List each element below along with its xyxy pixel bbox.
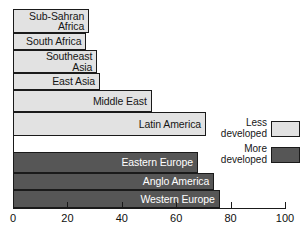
x-axis-tick-label: 100 <box>265 212 301 224</box>
legend-label: More developed <box>221 144 271 165</box>
bar-label: East Asia <box>52 76 99 87</box>
x-axis-tick-label: 60 <box>156 212 196 224</box>
bar: South Africa <box>13 33 86 50</box>
bar: Anglo America <box>13 173 214 190</box>
bar: Middle East <box>13 90 152 112</box>
bar: Sub-Sahran Africa <box>13 9 89 33</box>
bar-label: South Africa <box>26 36 85 47</box>
bar-label: Middle East <box>93 96 151 107</box>
x-axis-tick-label: 40 <box>102 212 142 224</box>
bar: Latin America <box>13 112 206 136</box>
legend-item-more-developed: More developed <box>204 144 300 165</box>
x-axis-tick <box>67 202 68 209</box>
x-axis-tick <box>13 202 14 209</box>
legend: Less developed More developed <box>204 118 300 170</box>
x-axis-tick <box>231 202 232 209</box>
bar-label: Western Europe <box>140 194 218 205</box>
bar: Eastern Europe <box>13 152 198 173</box>
x-axis-tick <box>285 202 286 209</box>
bar-label: Anglo America <box>143 176 213 187</box>
plot-area: Sub-Sahran AfricaSouth AfricaSoutheast A… <box>0 0 301 212</box>
legend-label: Less developed <box>221 118 271 139</box>
x-axis-tick <box>176 202 177 209</box>
bar-label: Latin America <box>139 119 205 130</box>
legend-swatch-less-developed <box>271 121 300 137</box>
bar-chart: Sub-Sahran AfricaSouth AfricaSoutheast A… <box>0 0 301 240</box>
legend-swatch-more-developed <box>271 147 300 163</box>
x-axis-tick-label: 20 <box>47 212 87 224</box>
legend-item-less-developed: Less developed <box>204 118 300 139</box>
bar: East Asia <box>13 73 100 90</box>
bar-label: Sub-Sahran Africa <box>29 11 88 32</box>
x-axis-tick-label: 80 <box>211 212 251 224</box>
x-axis-tick-label: 0 <box>0 212 33 224</box>
x-axis-tick <box>122 202 123 209</box>
x-axis-line <box>13 208 286 209</box>
bar: Western Europe <box>13 190 220 208</box>
bar-label: Southeast Asia <box>46 51 96 72</box>
bar: Southeast Asia <box>13 50 97 73</box>
bar-label: Eastern Europe <box>121 157 197 168</box>
